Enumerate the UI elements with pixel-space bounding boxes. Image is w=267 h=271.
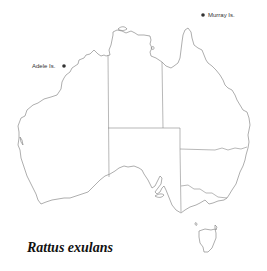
nt-qld-border	[162, 62, 163, 128]
markers	[62, 13, 205, 68]
murray-island-label: Murray Is.	[208, 12, 235, 18]
state-borders	[108, 55, 247, 212]
adele-island-label: Adele Is.	[32, 63, 55, 69]
map-title: Rattus exulans	[27, 240, 113, 256]
qld-nsw-border	[180, 147, 247, 150]
adele-island-marker	[62, 64, 66, 68]
sa-nsw-vic-border	[180, 149, 181, 212]
wa-border	[108, 55, 109, 177]
murray-island-marker	[201, 13, 205, 17]
mainland-coastline	[18, 27, 250, 213]
australia-map	[0, 0, 267, 271]
nsw-vic-border	[181, 185, 227, 198]
tasmania	[195, 223, 217, 252]
